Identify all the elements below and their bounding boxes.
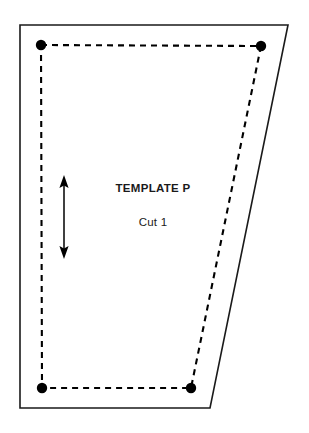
corner-dot-bottom-left (37, 383, 47, 393)
corner-dot-bottom-right (186, 383, 196, 393)
cut-instruction-label: Cut 1 (0, 216, 309, 228)
pattern-sheet: TEMPLATE P Cut 1 (0, 0, 309, 433)
corner-dot-top-right (256, 41, 266, 51)
corner-dot-top-left (36, 40, 46, 50)
page-title: TEMPLATE P (0, 182, 309, 194)
